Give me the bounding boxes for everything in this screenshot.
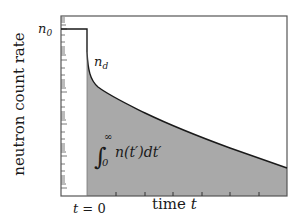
svg-text:∞: ∞ bbox=[104, 131, 112, 142]
integral-shaded-area bbox=[87, 52, 287, 196]
n0-label: n0 bbox=[38, 21, 52, 38]
svg-text:0: 0 bbox=[102, 157, 109, 168]
chart-canvas: neutron count rate n0 nd ∫ ∞ 0 n(t′)dt′ … bbox=[0, 0, 303, 224]
nd-label: nd bbox=[94, 54, 108, 71]
x-axis-label: time t bbox=[152, 195, 198, 213]
y-axis-ticks bbox=[61, 18, 67, 188]
t0-tick-label: t = 0 bbox=[73, 201, 106, 216]
svg-text:n(t′)dt′: n(t′)dt′ bbox=[115, 144, 162, 160]
y-axis-label: neutron count rate bbox=[10, 32, 28, 176]
